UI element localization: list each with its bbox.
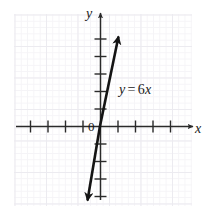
graph-figure: y x 0 y=6x: [0, 0, 210, 219]
equation-annotation: y=6x: [119, 82, 152, 98]
y-axis-label: y: [86, 7, 92, 21]
equation-coefficient: 6: [138, 82, 145, 97]
equation-lhs: y: [119, 82, 126, 97]
x-axis-label: x: [195, 122, 201, 136]
equation-operator: =: [126, 82, 138, 97]
equation-variable: x: [145, 82, 152, 97]
origin-label: 0: [88, 120, 95, 133]
coordinate-plane-svg: [0, 0, 210, 219]
